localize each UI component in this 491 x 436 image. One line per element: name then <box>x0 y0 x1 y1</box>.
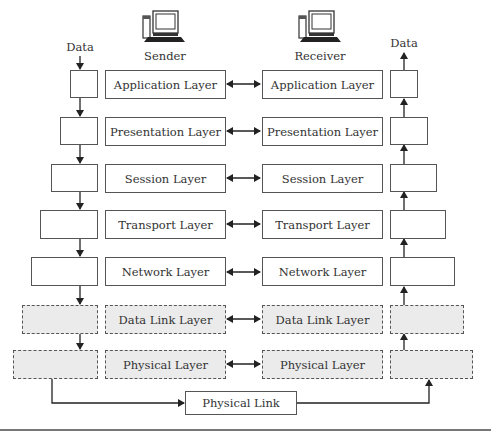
receiver-application-layer: Application Layer <box>262 70 383 99</box>
receiver-network-layer: Network Layer <box>262 257 383 286</box>
sender-datalink-layer: Data Link Layer <box>105 305 226 334</box>
sender-physical-layer: Physical Layer <box>105 350 226 379</box>
sender-data-block-datalink <box>22 305 98 334</box>
bottom-divider <box>0 429 491 431</box>
receiver-label: Receiver <box>290 49 350 63</box>
sender-data-block-physical <box>13 350 98 379</box>
receiver-physical-layer: Physical Layer <box>262 350 383 379</box>
receiver-transport-layer: Transport Layer <box>262 210 383 239</box>
data-out-label: Data <box>384 36 424 50</box>
receiver-data-block-datalink <box>390 305 464 334</box>
sender-application-layer: Application Layer <box>105 70 226 99</box>
receiver-data-block-transport <box>390 210 446 239</box>
receiver-data-block-session <box>390 164 437 192</box>
sender-label: Sender <box>140 49 190 63</box>
sender-data-block-presentation <box>60 117 98 145</box>
sender-computer-icon <box>141 9 187 44</box>
receiver-data-block-presentation <box>390 117 428 145</box>
receiver-data-block-physical <box>390 350 473 379</box>
receiver-data-block-network <box>390 257 455 286</box>
sender-data-block-transport <box>40 210 98 239</box>
receiver-computer-icon <box>297 9 343 44</box>
receiver-presentation-layer: Presentation Layer <box>262 117 383 146</box>
receiver-session-layer: Session Layer <box>262 164 383 193</box>
sender-transport-layer: Transport Layer <box>105 210 226 239</box>
physical-link-box: Physical Link <box>185 391 297 415</box>
data-in-label: Data <box>60 40 100 54</box>
receiver-datalink-layer: Data Link Layer <box>262 305 383 334</box>
receiver-data-block-application <box>390 70 418 98</box>
sender-data-block-session <box>51 164 98 192</box>
sender-presentation-layer: Presentation Layer <box>105 117 226 146</box>
sender-data-block-application <box>70 70 98 98</box>
sender-data-block-network <box>31 257 98 286</box>
sender-network-layer: Network Layer <box>105 257 226 286</box>
sender-session-layer: Session Layer <box>105 164 226 193</box>
